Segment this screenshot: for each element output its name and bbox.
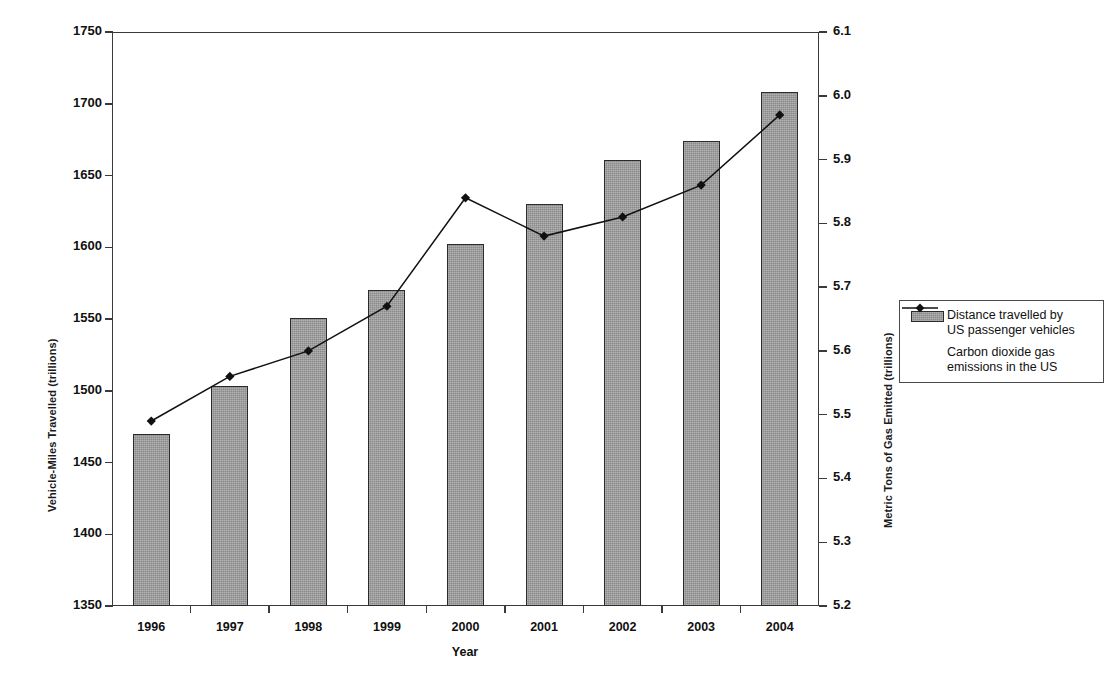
left-axis-tick-label: 1500 [34,382,102,397]
right-axis-tick [819,159,827,161]
right-axis-tick-label: 5.7 [833,278,893,293]
left-axis-tick-label: 1750 [34,23,102,38]
right-axis-tick-label: 5.2 [833,597,893,612]
left-axis-tick [105,175,113,177]
right-axis-tick-label: 5.8 [833,214,893,229]
x-axis-tick [347,606,349,613]
x-axis-tick [740,606,742,613]
bar-1998[interactable] [290,318,327,606]
right-axis-tick [819,223,827,225]
right-axis-tick-label: 6.0 [833,87,893,102]
x-axis-tick [661,606,663,613]
right-axis-tick [819,478,827,480]
left-axis-tick [105,462,113,464]
x-axis-tick-label: 1998 [268,620,348,634]
x-axis-tick-label: 2000 [426,620,506,634]
right-axis-tick [819,414,827,416]
x-axis-tick [504,606,506,613]
right-axis-tick-label: 6.1 [833,23,893,38]
right-axis-title: Metric Tons of Gas Emitted (trillions) [882,333,894,529]
bar-2004[interactable] [761,92,798,606]
left-axis-tick-label: 1450 [34,454,102,469]
legend: Distance travelled by US passenger vehic… [899,300,1104,383]
left-axis-tick-label: 1600 [34,238,102,253]
bar-2003[interactable] [683,141,720,606]
right-axis-tick [819,286,827,288]
x-axis-tick-label: 2002 [583,620,663,634]
legend-bar-label: Distance travelled by US passenger vehic… [947,308,1075,338]
chart-figure: Vehicle-Miles Travelled (trillions) Metr… [0,0,1116,678]
bar-2002[interactable] [604,160,641,606]
x-axis-tick [426,606,428,613]
left-axis-title: Vehicle-Miles Travelled (trillions) [46,339,58,512]
left-axis-tick [105,247,113,249]
right-axis-tick [819,31,827,33]
bar-1999[interactable] [368,290,405,606]
legend-item-line: Carbon dioxide gas emissions in the US [907,345,1095,375]
bar-2000[interactable] [447,244,484,606]
bar-1997[interactable] [211,386,248,606]
right-axis-tick [819,350,827,352]
left-axis-tick [105,534,113,536]
legend-line-label-line1: Carbon dioxide gas [947,345,1055,359]
right-axis-tick-label: 5.6 [833,342,893,357]
x-axis-title: Year [425,645,505,659]
legend-line-marker-icon [907,345,947,362]
x-axis-tick [190,606,192,613]
left-axis-tick-label: 1700 [34,95,102,110]
x-axis-tick-label: 2003 [661,620,741,634]
bar-2001[interactable] [526,204,563,606]
left-axis-tick-label: 1550 [34,310,102,325]
x-axis-tick-label: 1996 [111,620,191,634]
legend-line-label: Carbon dioxide gas emissions in the US [947,345,1057,375]
right-axis-tick [819,605,827,607]
x-axis-tick-label: 2001 [504,620,584,634]
left-axis-tick [105,31,113,33]
right-axis-tick [819,95,827,97]
bar-1996[interactable] [133,434,170,606]
left-axis-tick-label: 1400 [34,525,102,540]
right-axis-tick-label: 5.4 [833,469,893,484]
legend-line-label-line2: emissions in the US [947,360,1057,374]
x-axis-tick [268,606,270,613]
left-axis-tick [105,103,113,105]
left-axis-tick-label: 1350 [34,597,102,612]
legend-bar-label-line2: US passenger vehicles [947,323,1075,337]
right-axis-tick-label: 5.3 [833,533,893,548]
x-axis-tick-label: 2004 [740,620,820,634]
x-axis-tick [583,606,585,613]
right-axis-tick-label: 5.9 [833,151,893,166]
legend-bar-label-line1: Distance travelled by [947,308,1063,322]
right-axis-tick [819,542,827,544]
x-axis-tick-label: 1997 [190,620,270,634]
left-axis-tick-label: 1650 [34,167,102,182]
left-axis-tick [105,318,113,320]
right-axis-tick-label: 5.5 [833,406,893,421]
left-axis-tick [105,605,113,607]
left-axis-tick [105,390,113,392]
x-axis-tick-label: 1999 [347,620,427,634]
